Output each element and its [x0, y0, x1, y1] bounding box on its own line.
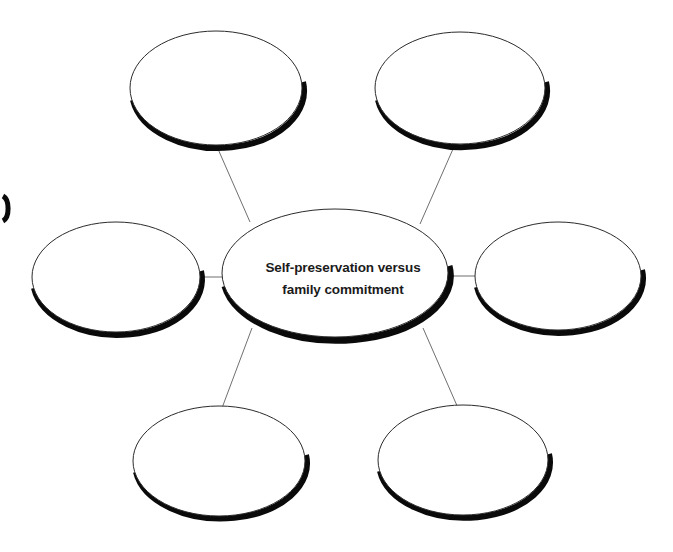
- connector-center-to-top-left: [218, 149, 250, 222]
- node-center[interactable]: Self-preservation versus family commitme…: [222, 209, 450, 340]
- node-bottom-left[interactable]: [133, 406, 307, 518]
- node-top-right[interactable]: [375, 32, 547, 147]
- partial-ellipse-icon: [3, 196, 8, 221]
- edge-fragment-shape: [3, 196, 8, 221]
- web-organizer-diagram: Self-preservation versus family commitme…: [0, 0, 673, 552]
- node-left[interactable]: [32, 222, 202, 335]
- node-right[interactable]: [475, 222, 643, 333]
- node-ellipse-bottom-left[interactable]: [133, 406, 305, 516]
- node-top-left[interactable]: [130, 31, 304, 148]
- connector-center-to-top-right: [420, 149, 453, 224]
- diagram-canvas: Self-preservation versus family commitme…: [0, 0, 673, 552]
- center-label-line-1: Self-preservation versus: [265, 260, 420, 275]
- node-ellipse-left[interactable]: [32, 222, 200, 332]
- node-bottom-right[interactable]: [378, 405, 550, 518]
- node-ellipse-top-left[interactable]: [130, 31, 302, 145]
- node-ellipse-top-right[interactable]: [375, 32, 545, 144]
- center-label-line-2: family commitment: [282, 282, 404, 297]
- node-ellipse-right[interactable]: [475, 222, 641, 330]
- connector-center-to-bottom-right: [423, 328, 458, 408]
- node-ellipse-bottom-right[interactable]: [378, 405, 548, 515]
- connector-center-to-bottom-left: [222, 328, 252, 408]
